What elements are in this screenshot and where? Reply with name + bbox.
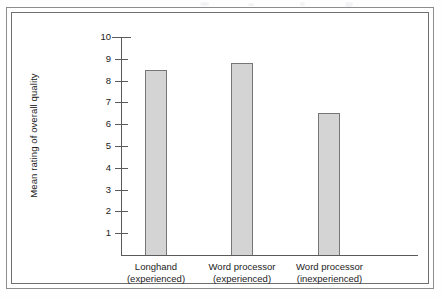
y-axis-title: Mean rating of overall quality <box>28 51 39 221</box>
y-tick-5 <box>115 146 128 147</box>
y-tick-6 <box>115 124 128 125</box>
scan-artifact <box>200 2 209 6</box>
x-category-label-0: Longhand (experienced) <box>115 261 197 284</box>
y-tick-label-3: 3 <box>93 185 111 195</box>
y-tick-9 <box>115 59 128 60</box>
y-tick-8 <box>115 81 128 82</box>
y-tick-label-8: 8 <box>93 76 111 86</box>
x-axis-line <box>121 255 418 256</box>
bar-chart: Mean rating of overall quality 10 9 8 7 … <box>11 12 429 284</box>
y-tick-label-6: 6 <box>93 119 111 129</box>
y-tick-label-10: 10 <box>93 32 111 42</box>
y-tick-label-4: 4 <box>93 163 111 173</box>
bar-longhand-experienced <box>145 70 167 255</box>
x-category-label-2: Word processor (inexperienced) <box>276 261 383 284</box>
y-tick-label-2: 2 <box>93 206 111 216</box>
y-tick-label-1: 1 <box>93 228 111 238</box>
y-tick-1 <box>115 233 128 234</box>
y-tick-label-7: 7 <box>93 97 111 107</box>
y-tick-10 <box>112 37 131 38</box>
bar-word-processor-experienced <box>231 63 253 255</box>
y-tick-label-5: 5 <box>93 141 111 151</box>
scan-artifact <box>248 3 254 6</box>
x-category-label-0-line1: Longhand <box>135 261 177 272</box>
x-category-label-0-line2: (experienced) <box>115 273 197 285</box>
y-tick-3 <box>115 190 128 191</box>
x-category-label-2-line1: Word processor <box>296 261 363 272</box>
y-tick-2 <box>115 211 128 212</box>
x-category-label-2-line2: (inexperienced) <box>276 273 383 285</box>
figure-page: Mean rating of overall quality 10 9 8 7 … <box>0 0 442 298</box>
y-tick-label-9: 9 <box>93 54 111 64</box>
scan-artifact <box>300 2 305 6</box>
x-category-label-1-line1: Word processor <box>209 261 276 272</box>
y-tick-4 <box>115 168 128 169</box>
y-tick-7 <box>115 102 128 103</box>
bar-word-processor-inexperienced <box>318 113 340 255</box>
